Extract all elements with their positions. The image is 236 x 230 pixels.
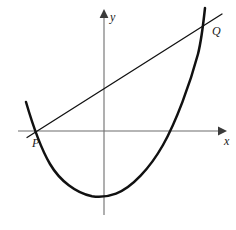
- x-axis: [18, 127, 227, 136]
- figure-canvas: y x P Q: [0, 0, 236, 230]
- arrow-up-icon: [100, 9, 109, 18]
- geometry-diagram: [0, 0, 236, 230]
- y-axis: [100, 9, 109, 215]
- x-axis-label: x: [224, 135, 229, 147]
- y-axis-label: y: [110, 11, 115, 23]
- parabola-curve: [26, 8, 205, 197]
- point-label-p: P: [32, 137, 39, 149]
- point-label-q: Q: [212, 25, 221, 37]
